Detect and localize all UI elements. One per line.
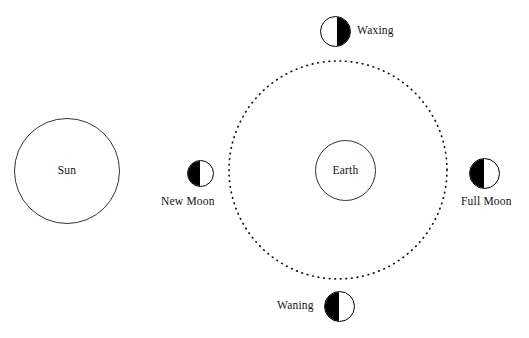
moon-dark-half [187, 160, 200, 187]
moon-phase-new-moon-icon [187, 160, 214, 187]
moon-phase-waning-label: Waning [277, 300, 314, 312]
moon-phase-diagram: Sun Earth Waxing New Moon Full Moon Wani… [0, 0, 529, 338]
moon-phase-waxing-icon [320, 16, 351, 47]
moon-phase-waning-icon [324, 291, 355, 322]
moon-phase-full-moon-label: Full Moon [461, 196, 512, 208]
moon-dark-half [324, 291, 339, 322]
moon-dark-half [337, 16, 352, 47]
moon-phase-waxing-label: Waxing [357, 25, 394, 37]
moon-phase-full-moon-icon [469, 158, 500, 189]
earth-label: Earth [315, 165, 376, 177]
moon-phase-new-moon-label: New Moon [161, 196, 215, 208]
sun-label: Sun [14, 165, 120, 177]
moon-dark-half [469, 158, 484, 189]
